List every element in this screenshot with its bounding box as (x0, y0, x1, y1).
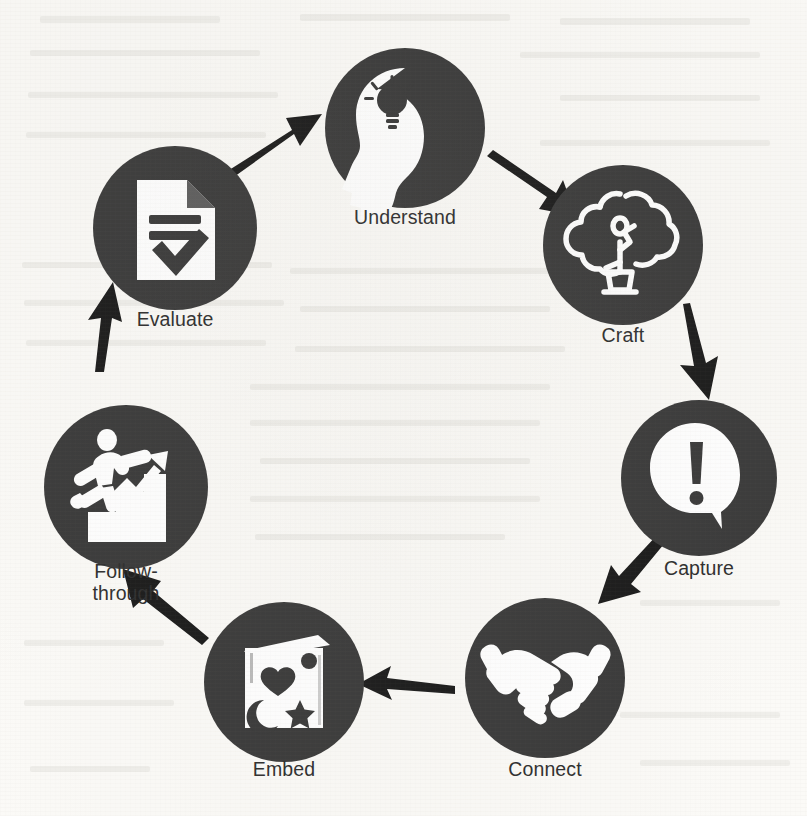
node-label-capture: Capture (639, 557, 759, 579)
node-label-craft: Craft (563, 324, 683, 346)
node-connect[interactable] (465, 598, 625, 758)
node-understand[interactable] (325, 48, 485, 222)
node-label-evaluate: Evaluate (115, 308, 235, 330)
node-label-connect: Connect (485, 758, 605, 780)
node-label-follow-through: Follow- through (56, 560, 196, 604)
node-capture[interactable] (621, 400, 777, 556)
node-embed[interactable] (204, 602, 364, 762)
cycle-diagram: Understand Craft Capture Connect Embed F… (0, 0, 807, 816)
node-evaluate[interactable] (93, 146, 257, 310)
book-shapes-icon (244, 635, 330, 734)
node-label-embed: Embed (224, 758, 344, 780)
node-label-understand: Understand (335, 206, 475, 228)
node-layer (0, 0, 807, 816)
node-craft[interactable] (543, 165, 703, 325)
node-follow-through[interactable] (44, 405, 208, 569)
